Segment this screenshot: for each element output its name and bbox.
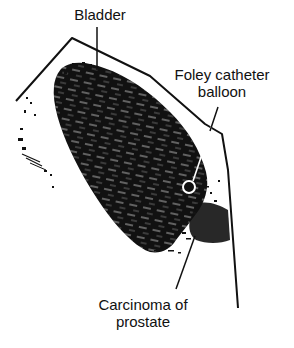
foley-label-line2: balloon bbox=[164, 83, 280, 100]
foley-balloon bbox=[183, 181, 195, 193]
carcinoma-label-line1: Carcinoma of bbox=[80, 296, 206, 313]
carcinoma-of-prostate-label: Carcinoma of prostate bbox=[80, 296, 206, 330]
bladder-label-text: Bladder bbox=[74, 6, 126, 23]
foley-label-line1: Foley catheter bbox=[164, 66, 280, 83]
ultrasound-diagram: Bladder Foley catheter balloon Carcinoma… bbox=[0, 0, 294, 348]
carcinoma-label-line2: prostate bbox=[80, 313, 206, 330]
foley-catheter-balloon-label: Foley catheter balloon bbox=[164, 66, 280, 100]
carcinoma-leader-line bbox=[176, 236, 195, 289]
bladder-label: Bladder bbox=[68, 6, 132, 23]
